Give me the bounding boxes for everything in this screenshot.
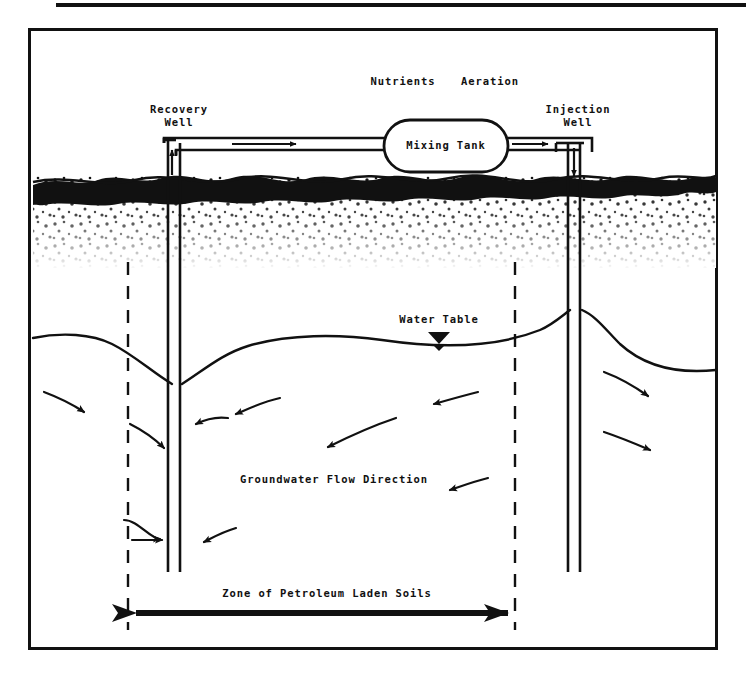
label-mixing-tank: Mixing Tank	[384, 139, 508, 152]
water-table-curve	[33, 310, 716, 384]
label-contaminant-zone: Zone of Petroleum Laden Soils	[207, 587, 447, 600]
label-aeration: Aeration	[455, 75, 525, 88]
label-groundwater-flow: Groundwater Flow Direction	[214, 473, 454, 486]
label-recovery-well: Recovery Well	[134, 103, 224, 129]
label-water-table: Water Table	[389, 313, 489, 326]
figure-canvas: Nutrients Aeration Recovery Well Injecti…	[0, 0, 749, 674]
diagram-graphics	[0, 0, 749, 674]
label-nutrients: Nutrients	[368, 75, 438, 88]
water-table-symbol	[428, 332, 450, 351]
groundwater-flow-arrows	[44, 372, 650, 542]
label-injection-well: Injection Well	[533, 103, 623, 129]
recovery-return-pipe	[164, 138, 392, 156]
